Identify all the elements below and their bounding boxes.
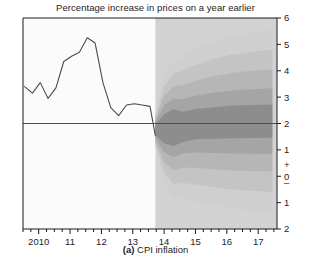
chart-plot-area: 654321012+–201011121314151617 (0, 0, 311, 264)
y-tick-label-6: 6 (284, 12, 289, 23)
cpi-inflation-fan-chart: Percentage increase in prices on a year … (0, 0, 311, 264)
y-tick-label-1: 1 (284, 144, 289, 155)
y-tick-label-2: 2 (284, 223, 289, 234)
y-tick-label-1: 1 (284, 197, 289, 208)
y-tick-label-4: 4 (284, 65, 289, 76)
caption-text: CPI inflation (137, 244, 188, 255)
y-axis-plus-sign: + (284, 159, 290, 170)
y-axis-minus-sign: – (284, 177, 290, 188)
y-tick-label-2: 2 (284, 118, 289, 129)
chart-caption: (a) CPI inflation (0, 244, 311, 255)
caption-prefix: (a) (123, 244, 135, 255)
y-tick-label-5: 5 (284, 39, 289, 50)
chart-title: Percentage increase in prices on a year … (0, 2, 311, 13)
y-tick-label-3: 3 (284, 92, 289, 103)
